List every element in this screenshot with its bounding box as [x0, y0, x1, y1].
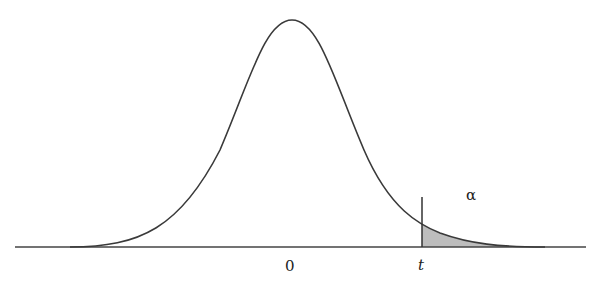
critical-value-label: t	[418, 256, 424, 274]
alpha-label: α	[466, 186, 476, 204]
shaded-tail-area	[70, 20, 545, 247]
t-distribution-diagram	[0, 0, 594, 290]
density-curve	[70, 20, 545, 247]
center-label: 0	[285, 257, 295, 275]
